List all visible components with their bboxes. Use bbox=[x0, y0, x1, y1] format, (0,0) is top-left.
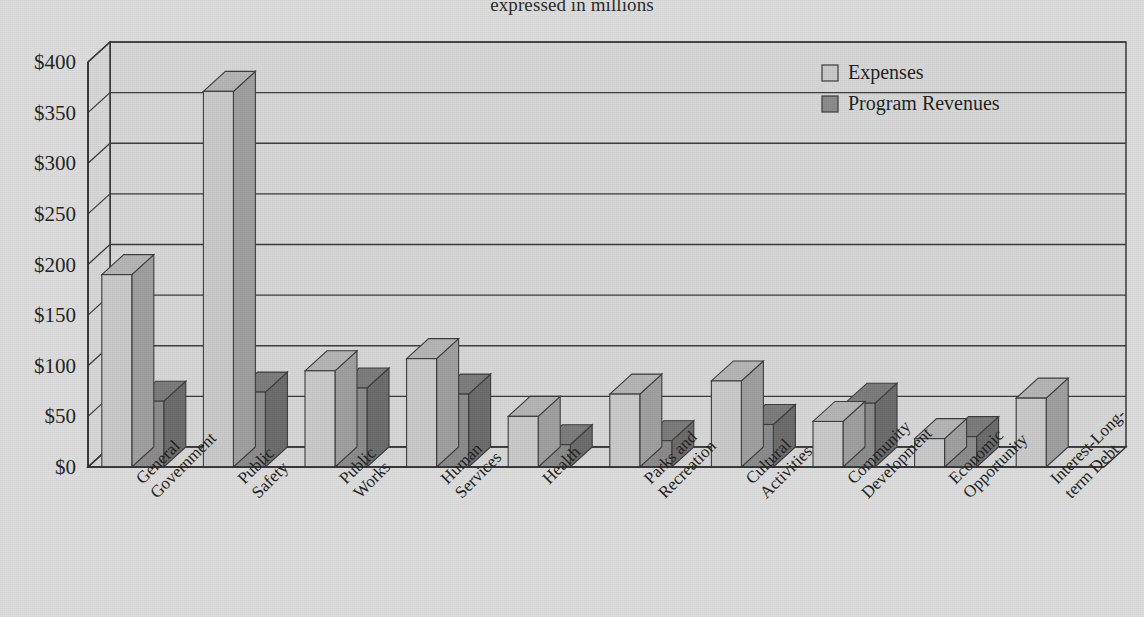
y-axis-tick-label: $0 bbox=[55, 455, 76, 479]
bar-side-face bbox=[233, 71, 255, 467]
bar-expenses-3 bbox=[407, 339, 459, 467]
y-axis-tick-label: $200 bbox=[34, 253, 76, 277]
bar-front-face bbox=[610, 394, 640, 467]
y-axis-tick-labels: $0$50$100$150$200$250$300$350$400 bbox=[34, 50, 76, 479]
chart-page: expressed in millions $0$50$100$150$200$… bbox=[0, 0, 1144, 617]
bar-side-face bbox=[437, 339, 459, 467]
bar-expenses-9 bbox=[1016, 378, 1068, 467]
bar-side-face bbox=[132, 255, 154, 467]
legend-swatch-expenses bbox=[822, 65, 838, 81]
bar-expenses-1 bbox=[203, 71, 255, 467]
y-axis-tick-label: $250 bbox=[34, 202, 76, 226]
bar-front-face bbox=[813, 421, 843, 467]
y-axis-tick-label: $150 bbox=[34, 303, 76, 327]
bar-front-face bbox=[102, 275, 132, 467]
bar-front-face bbox=[508, 416, 538, 467]
bar-expenses-0 bbox=[102, 255, 154, 467]
bar-front-face bbox=[203, 91, 233, 467]
bar-front-face bbox=[305, 371, 335, 467]
legend-label-expenses: Expenses bbox=[848, 61, 924, 84]
y-axis-tick-label: $100 bbox=[34, 354, 76, 378]
legend-label-program-revenues: Program Revenues bbox=[848, 92, 1000, 115]
y-axis-tick-label: $350 bbox=[34, 101, 76, 125]
y-axis-tick-label: $400 bbox=[34, 50, 76, 74]
y-axis-tick-label: $300 bbox=[34, 151, 76, 175]
legend-swatch-program-revenues bbox=[822, 96, 838, 112]
bar-expenses-2 bbox=[305, 351, 357, 467]
chart-title: expressed in millions bbox=[0, 0, 1144, 16]
bar-front-face bbox=[711, 381, 741, 467]
bar-chart: $0$50$100$150$200$250$300$350$400General… bbox=[0, 0, 1144, 617]
bar-expenses-5 bbox=[610, 374, 662, 467]
bar-expenses-6 bbox=[711, 361, 763, 467]
bar-front-face bbox=[407, 359, 437, 467]
y-axis-tick-label: $50 bbox=[45, 404, 77, 428]
